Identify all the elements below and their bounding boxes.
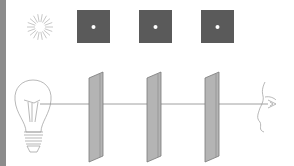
pinhole-view-2 bbox=[139, 10, 172, 43]
pinhole-view-1 bbox=[77, 10, 110, 43]
starburst-ray bbox=[28, 23, 36, 26]
starburst-ray bbox=[41, 32, 42, 40]
pinhole-alignment-diagram bbox=[0, 0, 294, 166]
starburst-ray bbox=[45, 29, 53, 32]
starburst-ray bbox=[38, 32, 39, 40]
starburst-ray bbox=[45, 23, 53, 26]
starburst-ray bbox=[28, 29, 36, 32]
starburst-ray bbox=[38, 14, 39, 22]
eye-profile-icon bbox=[258, 82, 276, 132]
light-source-starburst-icon bbox=[27, 14, 53, 40]
pinhole-panel-3 bbox=[205, 72, 219, 162]
pinhole-panel-2 bbox=[147, 72, 161, 162]
starburst-ray bbox=[41, 14, 42, 22]
pinhole-view-3 bbox=[201, 10, 234, 43]
pinhole-panel-1 bbox=[89, 72, 103, 162]
light-bulb-icon bbox=[15, 80, 51, 152]
